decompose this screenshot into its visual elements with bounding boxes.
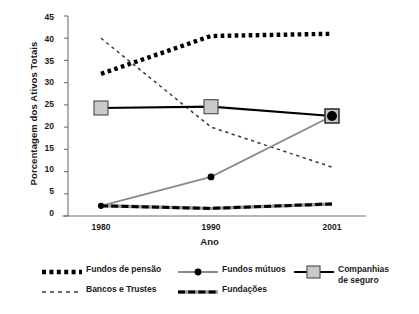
black-line-square-key-icon — [292, 265, 336, 279]
x-tick-1980: 1980 — [71, 222, 131, 232]
y-tick-10: 10 — [0, 164, 54, 174]
marker-companhias-1980 — [94, 101, 108, 115]
gray-line-circle-key-icon — [176, 265, 220, 279]
marker-mutuos-1980 — [98, 203, 104, 209]
y-tick-45: 45 — [0, 12, 54, 22]
marker-mutuos-1990 — [208, 174, 215, 181]
legend-label-fundos-de-pensao: Fundos de pensão — [86, 264, 161, 275]
y-tick-40: 40 — [0, 34, 54, 44]
series-fundacoes — [101, 204, 332, 208]
marker-mutuos-2001 — [327, 111, 337, 121]
legend-item-fundacoes: Fundações — [176, 284, 292, 306]
plot-area — [68, 16, 366, 216]
chart-legend: Fundos de pensão Fundos mútuos — [40, 264, 385, 312]
thin-dashed-key-icon — [40, 285, 84, 299]
thick-dotted-key-icon — [40, 265, 84, 279]
chart-figure: Porcentagem dos Ativos Totais 45 40 35 3… — [0, 0, 419, 314]
y-tick-15: 15 — [0, 143, 54, 153]
legend-row-1: Fundos de pensão Fundos mútuos — [40, 264, 385, 286]
y-tick-30: 30 — [0, 77, 54, 87]
legend-item-fundos-mutuos: Fundos mútuos — [176, 264, 292, 286]
legend-label-companhias-de-seguro: Companhias de seguro — [338, 264, 389, 285]
legend-label-fundacoes: Fundações — [222, 284, 267, 295]
legend-item-bancos-e-trustes: Bancos e Trustes — [40, 284, 176, 306]
legend-label-fundos-mutuos: Fundos mútuos — [222, 264, 286, 275]
legend-label-bancos-e-trustes: Bancos e Trustes — [86, 284, 156, 295]
y-tick-5: 5 — [0, 186, 54, 196]
x-tick-2001: 2001 — [302, 222, 362, 232]
y-tick-0: 0 — [0, 208, 54, 218]
legend-item-fundos-de-pensao: Fundos de pensão — [40, 264, 176, 286]
y-tick-20: 20 — [0, 121, 54, 131]
series-fundos-mutuos-line — [101, 116, 332, 206]
legend-item-companhias-de-seguro: Companhias de seguro — [292, 264, 382, 286]
y-tick-25: 25 — [0, 99, 54, 109]
legend-row-2: Bancos e Trustes Fundações — [40, 284, 385, 306]
marker-companhias-1990 — [204, 100, 218, 114]
y-tick-35: 35 — [0, 56, 54, 66]
thick-dash-key-icon — [176, 285, 220, 299]
series-fundos-de-pensao — [101, 34, 332, 74]
x-tick-1990: 1990 — [181, 222, 241, 232]
y-axis-ticks — [64, 16, 68, 216]
x-axis-title: Ano — [0, 236, 419, 247]
chart-canvas — [68, 16, 366, 216]
